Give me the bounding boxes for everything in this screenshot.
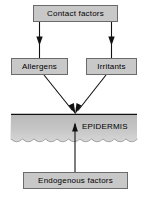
arrowhead-diagonal (69, 103, 76, 114)
node-label: Irritants (97, 62, 125, 71)
arrowhead-down (36, 37, 42, 46)
node-label: Endogenous factors (38, 176, 113, 185)
node-contact-factors[interactable]: Contact factors (34, 6, 118, 22)
node-irritants[interactable]: Irritants (87, 59, 137, 75)
diagram-canvas: EPIDERMIS Contact fac (0, 0, 151, 201)
node-endogenous-factors[interactable]: Endogenous factors (24, 173, 128, 189)
edge-contact-to-allergens (36, 22, 42, 58)
edge-allergens-to-epidermis (44, 75, 76, 114)
edge-line (44, 75, 73, 111)
edge-line (78, 75, 106, 111)
node-label: Allergens (22, 62, 57, 71)
edge-contact-to-irritants (108, 22, 114, 58)
diagram-svg: EPIDERMIS Contact fac (0, 0, 151, 201)
arrowhead-down (108, 37, 114, 46)
arrowhead-diagonal (75, 103, 82, 114)
epidermis-label: EPIDERMIS (82, 122, 128, 131)
node-allergens[interactable]: Allergens (12, 59, 68, 75)
node-label: Contact factors (47, 9, 104, 18)
edge-irritants-to-epidermis (75, 75, 106, 114)
edge-endogenous-to-epidermis (72, 123, 78, 173)
